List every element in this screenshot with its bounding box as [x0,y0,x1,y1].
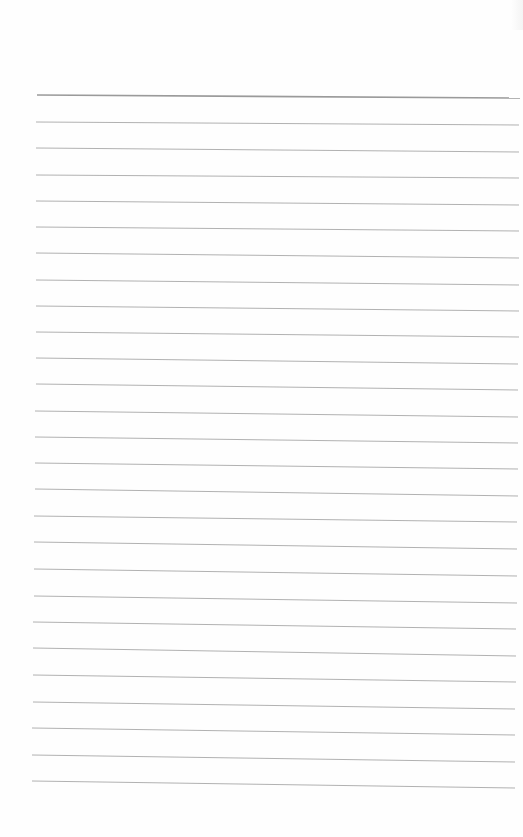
ruled-line [33,648,516,656]
ruled-line [36,148,519,152]
ruled-line [36,122,519,125]
ruled-line [36,280,519,285]
ruled-line [35,489,518,496]
ruled-line [36,306,519,311]
ruled-line [35,437,518,443]
ruled-line [34,596,517,603]
ruled-line [34,516,517,522]
ruled-line [34,569,517,576]
ruled-line [36,358,518,364]
ruled-line [33,702,515,709]
ruled-line [32,781,515,788]
ruled-lines [0,0,523,837]
ruled-line [33,675,516,682]
lined-paper-page [0,0,523,837]
ruled-line [32,755,515,762]
header-rule-line [37,95,520,98]
ruled-line [36,175,519,178]
ruled-line [35,463,518,469]
ruled-line [36,201,519,205]
ruled-line [36,332,519,337]
ruled-line [32,728,515,735]
ruled-line [36,227,519,231]
ruled-line [34,542,517,549]
ruled-line [33,622,516,629]
ruled-line [36,253,519,258]
ruled-line [35,411,518,417]
ruled-line [36,384,518,390]
